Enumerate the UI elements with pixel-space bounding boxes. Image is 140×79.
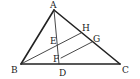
label-D: D	[59, 68, 66, 78]
label-C: C	[122, 65, 129, 75]
label-F: F	[53, 54, 59, 64]
label-H: H	[82, 23, 90, 33]
label-E: E	[50, 36, 57, 46]
segment-FG	[61, 42, 92, 58]
triangle-diagram: A B C D E F G H	[0, 0, 140, 79]
label-G: G	[93, 34, 100, 44]
segment-AC	[54, 10, 120, 64]
label-B: B	[11, 65, 18, 75]
segments	[21, 10, 120, 64]
label-A: A	[49, 0, 57, 10]
